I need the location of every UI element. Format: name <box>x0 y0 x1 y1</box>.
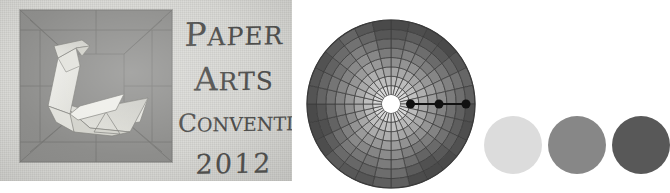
polar-center-hub <box>382 95 400 113</box>
poster-title-block: PAPER ARTS CONVENTION 2012 <box>178 8 290 176</box>
poster-line-paper: PAPER <box>177 17 290 52</box>
polar-cell <box>391 39 406 50</box>
poster-year-text: 2012 <box>195 147 273 179</box>
poster-line-convention-initial: C <box>178 109 198 138</box>
marker-3[interactable] <box>462 100 471 109</box>
poster-line-year: 2012 <box>177 149 290 178</box>
origami-swan-svg <box>20 10 172 162</box>
polar-cell <box>391 149 403 160</box>
polar-cell <box>335 104 346 116</box>
polar-cell <box>445 104 456 119</box>
marker-2[interactable] <box>435 100 444 109</box>
color-swatch-row <box>484 116 670 178</box>
poster-line-arts: ARTS <box>178 62 291 96</box>
swatch-dark <box>612 116 670 174</box>
poster-line-convention: CONVENTION <box>178 110 291 136</box>
poster-line-paper-initial: P <box>184 16 208 54</box>
polar-cell <box>381 58 391 68</box>
marker-1[interactable] <box>406 100 415 109</box>
polar-cell <box>391 158 406 169</box>
origami-swan-artwork <box>20 10 172 162</box>
poster-line-convention-rest: ONVENTION <box>197 112 292 136</box>
swatch-medium <box>548 116 606 174</box>
poster-line-arts-rest: RTS <box>218 66 274 96</box>
poster-line-paper-rest: APER <box>207 21 284 52</box>
polar-cell <box>376 158 391 169</box>
poster-panel: PAPER ARTS CONVENTION 2012 <box>0 0 292 181</box>
polar-cell <box>326 89 337 104</box>
polar-cell <box>345 104 355 114</box>
poster-line-arts-initial: A <box>194 60 219 98</box>
polar-cell <box>376 39 391 50</box>
polar-grid-chart <box>305 18 477 190</box>
polar-cell <box>379 48 391 59</box>
swatch-light <box>484 116 542 174</box>
polar-cell <box>445 89 456 104</box>
polar-grid-svg <box>305 18 477 190</box>
polar-cell <box>326 104 337 119</box>
polar-cell <box>391 140 401 150</box>
